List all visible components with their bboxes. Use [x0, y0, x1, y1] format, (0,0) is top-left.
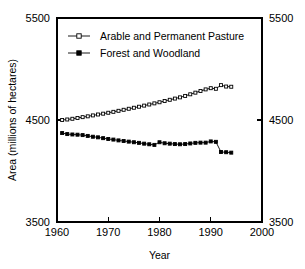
data-point-marker: [86, 134, 89, 137]
data-point-marker: [112, 138, 115, 141]
data-point-marker: [61, 119, 64, 122]
data-point-marker: [199, 90, 202, 93]
series-1: [61, 84, 233, 122]
data-point-marker: [153, 102, 156, 105]
legend-entry-2: Forest and Woodland: [68, 47, 200, 59]
data-point-marker: [148, 143, 151, 146]
y-axis-tick-labels-left: 350045005500: [26, 12, 50, 228]
legend-marker: [77, 51, 81, 55]
data-point-marker: [199, 141, 202, 144]
data-point-marker: [86, 115, 89, 118]
data-point-marker: [220, 151, 223, 154]
data-point-marker: [81, 134, 84, 137]
y-axis-title: Area (millions of hectares): [6, 59, 18, 181]
data-point-marker: [138, 141, 141, 144]
data-point-marker: [107, 137, 110, 140]
data-point-marker: [107, 111, 110, 114]
data-point-marker: [91, 114, 94, 117]
data-point-marker: [71, 133, 74, 136]
data-point-marker: [71, 117, 74, 120]
data-point-marker: [122, 108, 125, 111]
y-axis-tick-labels-right: 350045005500: [269, 12, 293, 228]
x-axis-tick-labels: 19601970198019902000: [45, 226, 274, 238]
x-tick-label: 1960: [45, 226, 69, 238]
data-point-marker: [214, 140, 217, 143]
data-point-marker: [132, 106, 135, 109]
data-point-marker: [204, 88, 207, 91]
data-point-marker: [66, 118, 69, 121]
chart-legend: Arable and Permanent PastureForest and W…: [68, 30, 244, 59]
data-point-marker: [127, 140, 130, 143]
data-point-marker: [91, 135, 94, 138]
x-axis-title: Year: [149, 249, 171, 261]
data-point-marker: [127, 107, 130, 110]
data-point-marker: [168, 142, 171, 145]
data-point-marker: [220, 84, 223, 87]
data-point-marker: [143, 104, 146, 107]
data-point-marker: [225, 85, 228, 88]
data-point-marker: [148, 103, 151, 106]
x-tick-label: 1970: [96, 226, 120, 238]
data-point-marker: [97, 113, 100, 116]
data-point-marker: [102, 112, 105, 115]
data-point-marker: [66, 133, 69, 136]
data-point-marker: [117, 139, 120, 142]
data-point-marker: [189, 142, 192, 145]
series-2: [61, 132, 233, 155]
data-point-marker: [138, 105, 141, 108]
data-point-marker: [117, 109, 120, 112]
legend-marker: [77, 34, 81, 38]
data-point-marker: [81, 116, 84, 119]
data-point-marker: [194, 141, 197, 144]
data-point-marker: [76, 133, 79, 136]
data-point-marker: [189, 93, 192, 96]
data-point-marker: [204, 141, 207, 144]
data-point-marker: [122, 140, 125, 143]
data-point-marker: [230, 151, 233, 154]
data-point-marker: [168, 98, 171, 101]
data-point-marker: [76, 116, 79, 119]
data-point-marker: [225, 151, 228, 154]
data-point-marker: [163, 100, 166, 103]
data-point-marker: [132, 141, 135, 144]
data-point-marker: [209, 140, 212, 143]
legend-label: Forest and Woodland: [100, 47, 200, 59]
legend-entry-1: Arable and Permanent Pasture: [68, 30, 244, 42]
y-tick-label-left: 4500: [26, 114, 50, 126]
data-point-marker: [97, 136, 100, 139]
data-point-marker: [143, 142, 146, 145]
land-use-line-chart: 350045005500 350045005500 19601970198019…: [0, 0, 305, 269]
x-tick-label: 2000: [250, 226, 274, 238]
data-point-marker: [184, 143, 187, 146]
data-point-marker: [102, 137, 105, 140]
data-point-marker: [179, 143, 182, 146]
data-point-marker: [163, 142, 166, 145]
data-point-marker: [184, 94, 187, 97]
data-point-marker: [214, 87, 217, 90]
data-point-marker: [173, 97, 176, 100]
chart-figure: 350045005500 350045005500 19601970198019…: [0, 0, 305, 269]
x-tick-label: 1990: [199, 226, 223, 238]
data-point-marker: [173, 143, 176, 146]
data-point-marker: [230, 85, 233, 88]
y-tick-label-right: 4500: [269, 114, 293, 126]
x-axis-ticks: [57, 217, 262, 222]
data-point-marker: [194, 91, 197, 94]
legend-label: Arable and Permanent Pasture: [100, 30, 244, 42]
data-point-marker: [61, 132, 64, 135]
x-tick-label: 1980: [147, 226, 171, 238]
y-tick-label-right: 5500: [269, 12, 293, 24]
data-point-marker: [179, 96, 182, 99]
data-point-marker: [158, 141, 161, 144]
data-point-marker: [112, 110, 115, 113]
y-tick-label-left: 5500: [26, 12, 50, 24]
data-point-marker: [209, 87, 212, 90]
data-point-marker: [153, 143, 156, 146]
data-series-layer: [61, 84, 233, 155]
data-point-marker: [158, 101, 161, 104]
